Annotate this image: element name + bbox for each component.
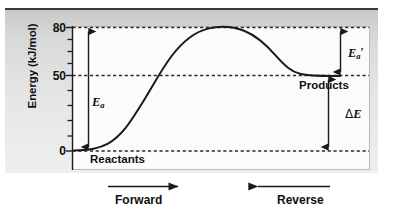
y-tick-label-0: 0 xyxy=(40,144,66,158)
forward-direction-label: Forward xyxy=(115,193,162,207)
activation-energy-reverse-label: Ea′ xyxy=(348,45,364,61)
activation-energy-forward-label: Ea xyxy=(92,95,105,110)
energy-diagram-figure: Energy (kJ/mol) 80 50 0 xyxy=(0,0,399,218)
enthalpy-change-label: ΔE xyxy=(345,107,362,122)
y-axis-title: Energy (kJ/mol) xyxy=(26,1,38,131)
plot-area xyxy=(72,26,370,170)
reactants-label: Reactants xyxy=(90,153,145,165)
reverse-direction-label: Reverse xyxy=(277,193,324,207)
products-label: Products xyxy=(299,79,349,91)
y-tick-label-50: 50 xyxy=(40,69,66,83)
y-tick-label-80: 80 xyxy=(40,21,66,35)
